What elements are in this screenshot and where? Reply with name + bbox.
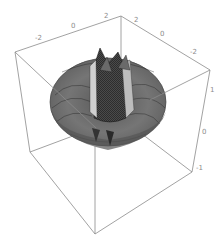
tick-z-0: 0	[202, 128, 206, 136]
tick-x-0: 0	[71, 22, 75, 30]
tick-y-2: 2	[134, 16, 138, 24]
tick-x-neg2: -2	[35, 34, 42, 42]
tick-y-neg2: -2	[190, 48, 197, 56]
surface-plot: -2 0 2 2 0 -2 1 0 -1	[0, 0, 224, 250]
tick-z-neg1: -1	[196, 164, 203, 172]
tick-y-0: 0	[160, 30, 164, 38]
surface-mesh	[50, 48, 166, 150]
tick-z-1: 1	[210, 86, 214, 94]
tick-x-2: 2	[104, 12, 108, 20]
